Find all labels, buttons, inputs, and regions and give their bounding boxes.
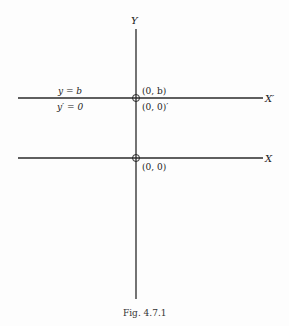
coordinate-diagram: Y X′ X (0, b) (0, 0)′ (0, 0) y = b y′ = … — [0, 0, 289, 326]
equation-y-prime-equals-0: y′ = 0 — [56, 102, 83, 112]
y-axis-label: Y — [131, 15, 139, 26]
point-0-0-label: (0, 0) — [142, 162, 166, 172]
equation-y-equals-b: y = b — [57, 86, 82, 96]
figure-4-7-1: Y X′ X (0, b) (0, 0)′ (0, 0) y = b y′ = … — [0, 0, 289, 326]
point-0-b-label: (0, b) — [142, 86, 166, 96]
figure-caption: Fig. 4.7.1 — [123, 308, 167, 318]
x-prime-axis-label: X′ — [264, 93, 275, 104]
point-0-0-prime-label: (0, 0)′ — [142, 102, 168, 112]
x-axis-label: X — [264, 153, 273, 164]
